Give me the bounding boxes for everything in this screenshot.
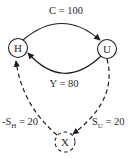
- edge-c-label: C = 100: [49, 5, 83, 16]
- node-h-label: H: [14, 42, 22, 54]
- edge-c-arc: [23, 24, 100, 41]
- edge-su-label: SU = 20: [92, 116, 125, 130]
- edge-sh-label: -SH = 20: [2, 116, 38, 130]
- edge-y-arc: [28, 53, 101, 73]
- flow-diagram: H U X C = 100 Y = 80 -SH = 20 SU = 20: [0, 0, 132, 159]
- node-h: H: [9, 39, 28, 58]
- node-x-label: X: [61, 136, 69, 148]
- node-u-label: U: [103, 43, 111, 55]
- diagram-canvas: H U X C = 100 Y = 80 -SH = 20 SU = 20: [0, 0, 132, 159]
- edge-y-label: Y = 80: [50, 78, 79, 89]
- node-x: X: [55, 132, 75, 152]
- node-u: U: [98, 40, 117, 59]
